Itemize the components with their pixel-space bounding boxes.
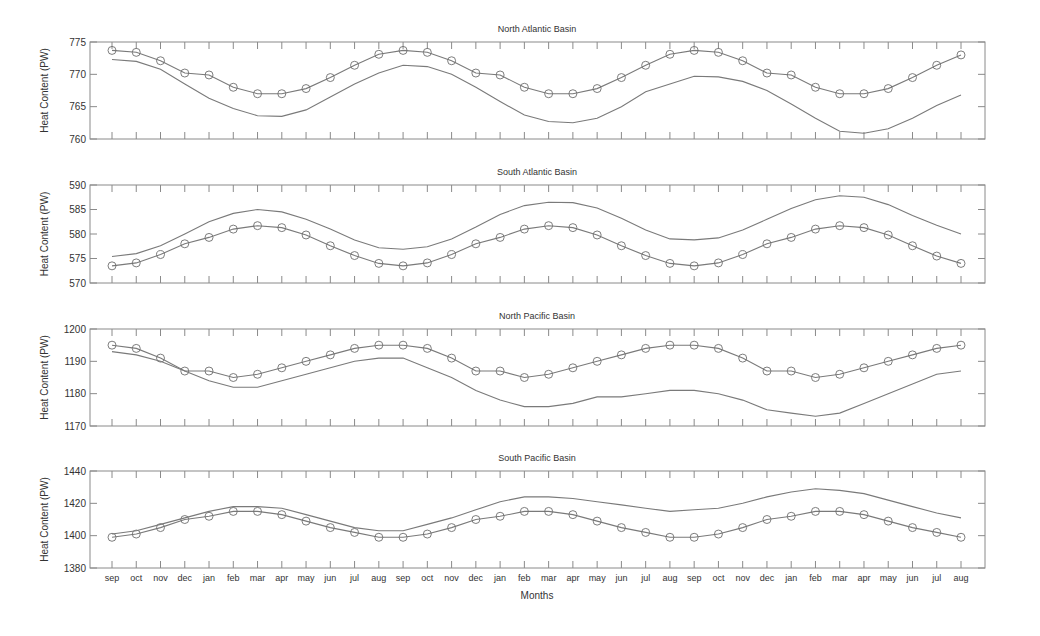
series-circles-line <box>112 50 961 93</box>
x-tick-label: dec <box>760 573 775 583</box>
x-tick-label: sep <box>396 573 411 583</box>
series-line-line <box>112 60 961 134</box>
y-axis-label: Heat Content (PW) <box>39 192 50 276</box>
y-tick-label: 775 <box>69 37 86 48</box>
x-tick-label: dec <box>178 573 193 583</box>
figure-canvas: North Atlantic Basin760765770775Heat Con… <box>0 0 1040 636</box>
y-tick-label: 590 <box>69 180 86 191</box>
y-tick-label: 765 <box>69 101 86 112</box>
x-tick-label: aug <box>371 573 386 583</box>
series-circles-line <box>112 345 961 377</box>
x-tick-label: nov <box>153 573 168 583</box>
x-tick-label: apr <box>857 573 870 583</box>
x-tick-label: may <box>880 573 898 583</box>
x-tick-label: nov <box>444 573 459 583</box>
x-tick-label: dec <box>469 573 484 583</box>
x-tick-label: sep <box>105 573 120 583</box>
x-tick-label: oct <box>421 573 434 583</box>
x-tick-label: feb <box>809 573 822 583</box>
x-tick-label: aug <box>953 573 968 583</box>
x-tick-label: jun <box>323 573 336 583</box>
y-axis-label: Heat Content (PW) <box>39 48 50 132</box>
panels-container: North Atlantic Basin760765770775Heat Con… <box>39 24 985 583</box>
y-tick-label: 1400 <box>64 530 87 541</box>
y-tick-label: 1440 <box>64 466 87 477</box>
y-tick-label: 1380 <box>64 563 87 574</box>
x-tick-label: oct <box>712 573 725 583</box>
y-tick-label: 770 <box>69 69 86 80</box>
y-tick-label: 1420 <box>64 498 87 509</box>
series-circles-line <box>112 511 961 537</box>
x-tick-label: mar <box>832 573 848 583</box>
panel-title: South Pacific Basin <box>498 453 576 463</box>
panel-title: South Atlantic Basin <box>497 167 577 177</box>
x-axis-label: Months <box>521 590 554 601</box>
x-tick-label: may <box>298 573 316 583</box>
x-tick-label: jun <box>905 573 918 583</box>
x-tick-label: feb <box>227 573 240 583</box>
x-tick-label: jun <box>614 573 627 583</box>
axes-frame <box>90 471 985 568</box>
y-tick-label: 575 <box>69 253 86 264</box>
x-tick-label: jul <box>931 573 941 583</box>
x-tick-label: jan <box>784 573 797 583</box>
x-tick-label: mar <box>541 573 557 583</box>
y-axis-label: Heat Content (PW) <box>39 477 50 561</box>
panel-north-atlantic-basin: North Atlantic Basin760765770775Heat Con… <box>39 24 985 145</box>
y-tick-label: 570 <box>69 278 86 289</box>
y-tick-label: 580 <box>69 229 86 240</box>
series-circles-line <box>112 226 961 266</box>
y-tick-label: 1200 <box>64 324 87 335</box>
x-tick-label: jul <box>349 573 359 583</box>
panel-title: North Atlantic Basin <box>498 24 577 34</box>
x-tick-label: jan <box>202 573 215 583</box>
y-tick-label: 1190 <box>64 356 86 367</box>
axes-frame <box>90 329 985 426</box>
x-tick-label: jan <box>493 573 506 583</box>
x-tick-label: jul <box>640 573 650 583</box>
panel-south-atlantic-basin: South Atlantic Basin570575580585590Heat … <box>39 167 985 289</box>
x-tick-label: apr <box>566 573 579 583</box>
y-tick-label: 1180 <box>64 388 86 399</box>
x-tick-label: may <box>589 573 607 583</box>
x-tick-label: mar <box>250 573 266 583</box>
x-tick-label: apr <box>275 573 288 583</box>
y-tick-label: 760 <box>69 134 86 145</box>
axes-frame <box>90 185 985 283</box>
panel-north-pacific-basin: North Pacific Basin1170118011901200Heat … <box>39 311 985 432</box>
x-tick-label: oct <box>130 573 143 583</box>
y-axis-label: Heat Content (PW) <box>39 335 50 419</box>
y-tick-label: 1170 <box>64 421 86 432</box>
series-line-line <box>112 352 961 417</box>
panel-south-pacific-basin: South Pacific Basin1380140014201440Heat … <box>39 453 985 583</box>
x-tick-label: sep <box>687 573 702 583</box>
x-tick-label: aug <box>662 573 677 583</box>
y-tick-label: 585 <box>69 204 86 215</box>
panel-title: North Pacific Basin <box>499 311 575 321</box>
x-tick-label: nov <box>735 573 750 583</box>
x-tick-label: feb <box>518 573 531 583</box>
